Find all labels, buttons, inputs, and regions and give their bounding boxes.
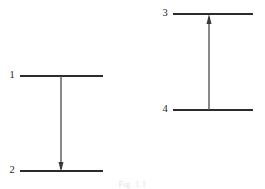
arrowhead-up-icon (207, 14, 212, 24)
energy-level-diagram: 1 2 3 4 (0, 0, 265, 189)
energy-level-label-4: 4 (162, 103, 168, 114)
energy-level-label-1: 1 (9, 69, 14, 80)
left-diagram-group: 1 2 (9, 69, 103, 175)
figure-caption: Fig. 1.1 (0, 180, 265, 189)
figure-canvas: 1 2 3 4 Fig. 1.1 (0, 0, 265, 189)
energy-level-label-3: 3 (162, 7, 167, 18)
right-diagram-group: 3 4 (162, 7, 253, 114)
energy-level-label-2: 2 (9, 164, 14, 175)
